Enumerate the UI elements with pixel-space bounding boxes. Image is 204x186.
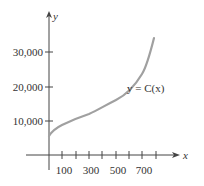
cost-function-chart: y x 30,000 20,000 10,000 100 300 500 700… bbox=[0, 0, 204, 186]
x-tick-label-700: 700 bbox=[136, 164, 153, 176]
y-axis-label: y bbox=[52, 10, 58, 22]
x-axis-label: x bbox=[182, 149, 188, 161]
curve-label: y = C(x) bbox=[127, 82, 165, 95]
x-tick-label-300: 300 bbox=[83, 164, 100, 176]
y-tick-label-20000: 20,000 bbox=[13, 81, 44, 93]
y-tick-label-10000: 10,000 bbox=[13, 115, 44, 127]
y-tick-label-30000: 30,000 bbox=[13, 46, 44, 58]
x-tick-label-500: 500 bbox=[110, 164, 127, 176]
x-tick-label-100: 100 bbox=[56, 164, 73, 176]
